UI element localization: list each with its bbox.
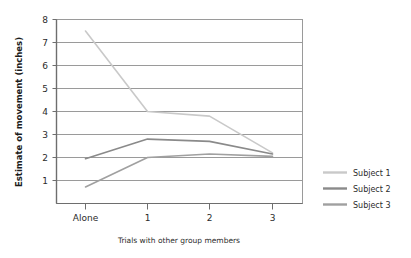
legend-label-subject-3: Subject 3 xyxy=(353,201,391,210)
y-tick-label-5: 5 xyxy=(42,84,48,94)
x-axis-title: Trials with other group members xyxy=(117,236,240,245)
y-axis-title: Estimate of movement (inches) xyxy=(14,37,24,187)
y-tick-label-2: 2 xyxy=(42,153,48,163)
y-tick-label-3: 3 xyxy=(42,130,48,140)
legend-item-subject-1[interactable]: Subject 1 xyxy=(323,169,391,178)
y-tick-label-7: 7 xyxy=(42,38,48,48)
y-tick-label-4: 4 xyxy=(42,107,48,117)
legend-item-subject-3[interactable]: Subject 3 xyxy=(323,201,391,210)
x-axis xyxy=(57,204,303,210)
y-tick-label-6: 6 xyxy=(42,61,48,71)
y-tick-label-1: 1 xyxy=(42,176,48,186)
y-axis xyxy=(53,20,57,204)
x-tick-label-alone: Alone xyxy=(73,213,99,223)
legend-label-subject-1: Subject 1 xyxy=(353,169,391,178)
y-tick-label-8: 8 xyxy=(42,15,48,25)
chart-svg: 8 7 6 5 4 3 2 1 Alone 1 2 3 Estimate of … xyxy=(0,0,411,258)
x-tick-label-1: 1 xyxy=(145,213,151,223)
legend-item-subject-2[interactable]: Subject 2 xyxy=(323,185,391,194)
line-chart: 8 7 6 5 4 3 2 1 Alone 1 2 3 Estimate of … xyxy=(0,0,411,258)
legend: Subject 1 Subject 2 Subject 3 xyxy=(323,169,391,210)
legend-label-subject-2: Subject 2 xyxy=(353,185,391,194)
x-tick-label-2: 2 xyxy=(207,213,213,223)
x-tick-label-3: 3 xyxy=(270,213,276,223)
